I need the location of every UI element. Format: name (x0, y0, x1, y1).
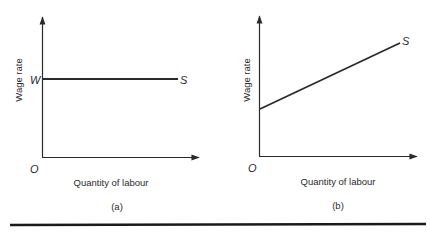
x-axis-label-b: Quantity of labour (301, 176, 376, 187)
bottom-rule (10, 224, 426, 225)
caption-b: (b) (332, 200, 344, 211)
x-axis-label-a: Quantity of labour (74, 177, 149, 188)
y-axis-label-b: Wage rate (241, 58, 252, 101)
supply-curve-b (260, 43, 400, 109)
figure: W S O Wage rate Quantity of labour (a) S… (0, 0, 430, 232)
supply-label-a: S (180, 74, 188, 86)
caption-a: (a) (111, 201, 123, 212)
w-label: W (30, 74, 42, 86)
origin-label-b: O (248, 162, 257, 174)
panel-b: S O Wage rate Quantity of labour (b) (241, 16, 417, 211)
origin-label-a: O (30, 163, 39, 175)
supply-label-b: S (402, 35, 410, 47)
panel-a: W S O Wage rate Quantity of labour (a) (13, 17, 199, 212)
y-axis-label-a: Wage rate (13, 58, 24, 101)
